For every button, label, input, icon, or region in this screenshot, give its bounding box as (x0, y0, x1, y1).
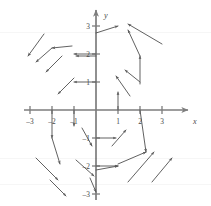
x-tick-label: –1 (69, 117, 78, 126)
x-tick-label: –3 (25, 117, 34, 126)
field-arrow (36, 48, 52, 62)
x-tick-label: 1 (116, 117, 120, 126)
y-tick-label: –1 (82, 134, 91, 143)
field-arrow (46, 56, 62, 72)
field-arrow (125, 70, 140, 82)
y-tick-label: –3 (82, 190, 91, 199)
y-axis-label: y (103, 11, 108, 20)
field-arrow (36, 158, 58, 180)
field-arrow (152, 158, 172, 182)
field-arrow (52, 46, 72, 48)
axis-layer (24, 10, 188, 200)
field-arrow (118, 152, 146, 164)
field-arrow (52, 138, 60, 164)
field-arrow (58, 78, 74, 94)
y-tick-label: 3 (86, 22, 90, 31)
field-arrow (96, 26, 118, 33)
field-arrow (128, 30, 140, 56)
x-axis-label: x (192, 117, 197, 126)
y-tick-label: –2 (82, 162, 91, 171)
x-tick-label: 3 (160, 117, 164, 126)
field-arrow (28, 34, 44, 56)
field-arrow (128, 152, 154, 182)
y-tick-label: 2 (86, 50, 90, 59)
direction-field-figure: –3–2–1123321–1–2–3 x y (0, 0, 211, 206)
x-tick-label: –2 (47, 117, 56, 126)
x-tick-label: 2 (138, 117, 142, 126)
vector-field-plot: –3–2–1123321–1–2–3 x y (0, 0, 211, 206)
field-arrow (50, 180, 66, 196)
y-tick-label: 1 (86, 78, 90, 87)
field-arrow (90, 178, 96, 192)
